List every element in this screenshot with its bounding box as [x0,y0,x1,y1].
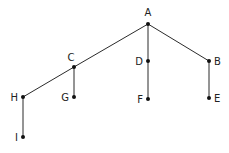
node-dot-icon [72,95,76,99]
node-dot-icon [21,135,25,139]
node-label: I [15,132,18,143]
node-a: A [145,7,152,26]
node-label: E [214,93,220,104]
node-dot-icon [146,59,150,63]
node-dot-icon [21,95,25,99]
node-dot-icon [207,96,211,100]
node-dot-icon [207,59,211,63]
node-label: H [10,92,18,103]
node-dot-icon [72,65,76,69]
node-i: I [15,132,25,143]
node-dot-icon [146,97,150,101]
node-label: A [145,7,152,18]
edge-a-b [148,24,209,61]
node-label: B [214,56,221,67]
edges-group [23,24,209,137]
node-label: D [135,56,143,67]
node-label: C [68,52,75,63]
node-dot-icon [146,22,150,26]
nodes-group: ABCDEFGHI [10,7,221,143]
node-c: C [68,52,76,69]
node-label: G [61,92,69,103]
node-label: F [137,94,143,105]
tree-diagram-svg: ABCDEFGHI [0,0,229,153]
tree-diagram: ABCDEFGHI [0,0,229,153]
